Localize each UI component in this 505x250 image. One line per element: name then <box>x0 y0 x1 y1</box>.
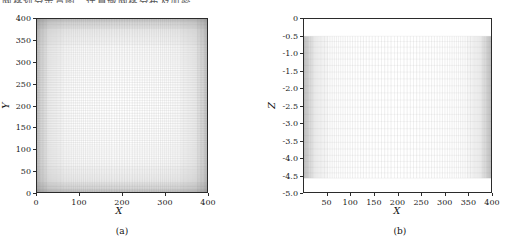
xtick-mark <box>327 193 328 196</box>
ytick-label: -4.5 <box>267 171 298 180</box>
xtick-mark <box>398 193 399 196</box>
ytick-label: -4.0 <box>267 154 298 163</box>
ytick-label: 300 <box>0 57 31 66</box>
panel-b-caption: (b) <box>394 226 407 236</box>
plot-b-axes <box>303 18 492 193</box>
ytick-label: -3.0 <box>267 119 298 128</box>
xtick-label: 50 <box>322 198 332 207</box>
xtick-mark <box>421 193 422 196</box>
ytick-label: -5.0 <box>267 189 298 198</box>
ytick-mark <box>300 193 303 194</box>
ytick-mark <box>300 123 303 124</box>
figure-container: 网格划分示意图，计算域网格分布及加密 400350300250200150100… <box>0 0 505 250</box>
ytick-mark <box>300 18 303 19</box>
ytick-mark <box>33 84 36 85</box>
ytick-mark <box>300 71 303 72</box>
ytick-label: -2.0 <box>267 84 298 93</box>
xtick-label: 400 <box>200 198 215 207</box>
xtick-mark <box>122 193 123 196</box>
ytick-mark <box>33 106 36 107</box>
plot-a-axes <box>36 18 208 193</box>
ytick-mark <box>300 158 303 159</box>
xtick-label: 300 <box>437 198 452 207</box>
xtick-mark <box>165 193 166 196</box>
xtick-mark <box>79 193 80 196</box>
xtick-mark <box>208 193 209 196</box>
ytick-label: 350 <box>0 35 31 44</box>
ytick-label: 50 <box>0 167 31 176</box>
xtick-label: 150 <box>366 198 381 207</box>
ytick-mark <box>300 106 303 107</box>
xtick-mark <box>374 193 375 196</box>
ytick-mark <box>33 40 36 41</box>
panel-a: 400350300250200150100500 0100200300400 X… <box>0 0 240 250</box>
ytick-mark <box>33 62 36 63</box>
ytick-mark <box>33 18 36 19</box>
ytick-mark <box>300 36 303 37</box>
plot-a-yaxis-label: Y <box>0 102 11 108</box>
xtick-label: 250 <box>413 198 428 207</box>
ytick-label: 250 <box>0 79 31 88</box>
ytick-mark <box>300 53 303 54</box>
ytick-label: -1.5 <box>267 66 298 75</box>
xtick-label: 100 <box>343 198 358 207</box>
ytick-label: -1.0 <box>267 49 298 58</box>
plot-b-yaxis-label: Z <box>266 102 277 109</box>
xtick-label: 100 <box>71 198 86 207</box>
ytick-mark <box>33 149 36 150</box>
ytick-label: -0.5 <box>267 31 298 40</box>
xtick-mark <box>492 193 493 196</box>
ytick-mark <box>300 141 303 142</box>
panel-a-caption: (a) <box>116 226 128 236</box>
xtick-mark <box>468 193 469 196</box>
xtick-label: 0 <box>33 198 38 207</box>
ytick-label: 100 <box>0 145 31 154</box>
xtick-mark <box>350 193 351 196</box>
xtick-label: 300 <box>157 198 172 207</box>
panel-b: 0-0.5-1.0-1.5-2.0-2.5-3.0-3.5-4.0-4.5-5.… <box>240 0 505 250</box>
plot-b-mesh <box>304 19 491 192</box>
plot-a-xaxis-label: X <box>116 205 123 216</box>
plot-a-mesh <box>37 19 207 192</box>
xtick-label: 400 <box>484 198 499 207</box>
ytick-mark <box>33 127 36 128</box>
xtick-mark <box>36 193 37 196</box>
ytick-mark <box>33 171 36 172</box>
ytick-label: 0 <box>267 14 298 23</box>
ytick-label: 0 <box>0 189 31 198</box>
ytick-mark <box>300 88 303 89</box>
ytick-label: -3.5 <box>267 136 298 145</box>
xtick-mark <box>445 193 446 196</box>
xtick-label: 350 <box>461 198 476 207</box>
ytick-label: 400 <box>0 14 31 23</box>
ytick-mark <box>300 176 303 177</box>
ytick-label: 150 <box>0 123 31 132</box>
plot-b-xaxis-label: X <box>394 205 401 216</box>
